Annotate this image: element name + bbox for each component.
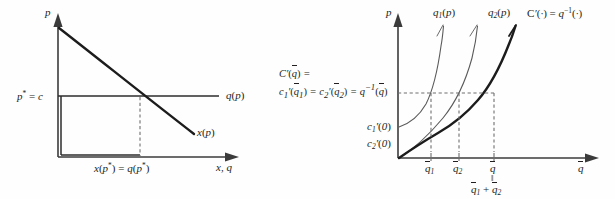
q2-tick-label: q2 — [453, 162, 462, 176]
firm2-supply-curve — [399, 26, 478, 158]
firm1-supply-curve — [399, 26, 444, 127]
marginal-cost-equation-block: C′(q) = c1′(q1) = c2′(q2) = q−1(q) — [279, 66, 387, 102]
firm2-supply-curve-label: q2(p) — [488, 6, 510, 20]
figure-root: p x, q p* = c q(p) x(p) x(p*) = q(p*) — [0, 0, 615, 199]
sum-identity-label: q1 + q2 — [471, 183, 501, 197]
firm2-label-leader — [470, 25, 477, 36]
aggregate-marginal-cost-curve — [399, 26, 516, 158]
q1-tick-label: q1 — [425, 162, 434, 176]
firm1-intercept-label: c1′(0) — [367, 120, 391, 134]
right-y-axis — [393, 13, 402, 158]
firm2-intercept-label: c2′(0) — [367, 137, 391, 151]
equation-line-2: c1′(q1) = c2′(q2) = q−1(q) — [279, 81, 387, 101]
right-x-axis-label: q — [578, 162, 584, 176]
firm1-label-leader — [437, 25, 443, 36]
aggregate-marginal-cost-curve-label: C′(·) = q−1(·) — [527, 6, 582, 21]
equation-line-1: C′(q) = — [279, 66, 387, 81]
firm1-supply-curve-label: q1(p) — [433, 6, 455, 20]
right-y-axis-label: p — [386, 6, 392, 20]
